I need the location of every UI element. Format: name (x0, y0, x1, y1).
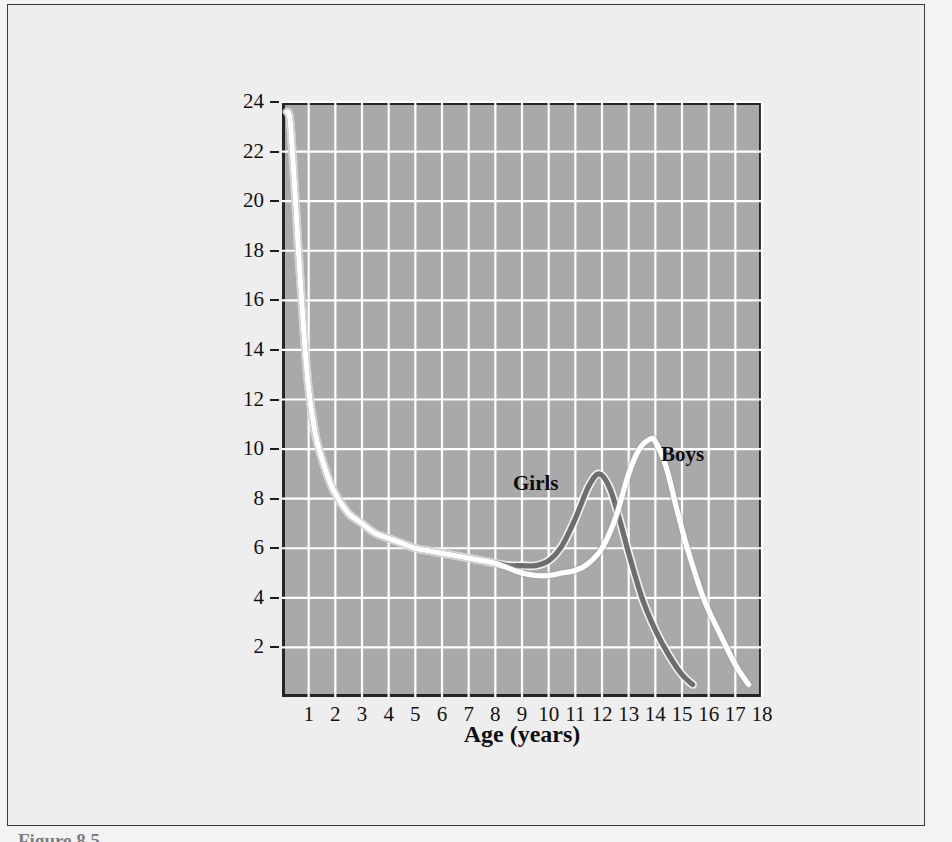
y-tick-label: 10 (230, 438, 264, 459)
y-tick-mark (270, 250, 279, 252)
y-tick-label: 20 (230, 190, 264, 211)
y-tick-label: 24 (230, 91, 264, 112)
figure-caption: Figure 8.5 (18, 830, 932, 842)
y-tick-mark (270, 547, 279, 549)
chart-series-lines (282, 102, 762, 697)
y-tick-label: 14 (230, 339, 264, 360)
y-tick-mark (270, 646, 279, 648)
y-tick-mark (270, 349, 279, 351)
series-line-girls (287, 112, 693, 685)
y-tick-mark (270, 200, 279, 202)
y-tick-label: 16 (230, 289, 264, 310)
figure-frame: 24681012141618202224 1234567891011121314… (7, 4, 925, 826)
y-tick-mark (270, 597, 279, 599)
y-tick-label: 6 (230, 537, 264, 558)
y-tick-label: 22 (230, 141, 264, 162)
series-line-boys (287, 112, 749, 685)
y-tick-label: 2 (230, 636, 264, 657)
y-tick-mark (270, 151, 279, 153)
y-tick-label: 8 (230, 488, 264, 509)
x-axis-title: Age (years) (282, 721, 762, 748)
y-tick-mark (270, 448, 279, 450)
y-tick-label: 4 (230, 587, 264, 608)
y-tick-mark (270, 498, 279, 500)
series-label-boys: Boys (661, 442, 704, 467)
y-tick-label: 12 (230, 389, 264, 410)
figure-container: 24681012141618202224 1234567891011121314… (0, 0, 952, 842)
y-tick-mark (270, 101, 279, 103)
y-tick-mark (270, 299, 279, 301)
chart-plot-wrapper (282, 102, 762, 697)
y-tick-mark (270, 399, 279, 401)
y-tick-label: 18 (230, 240, 264, 261)
series-label-girls: Girls (513, 471, 559, 496)
